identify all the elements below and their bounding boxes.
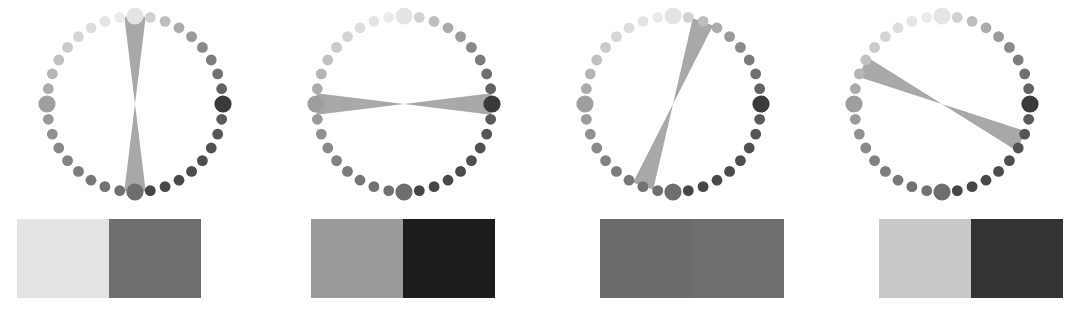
- wheel-dot: [664, 183, 681, 200]
- wheel-dot: [197, 42, 208, 53]
- wheel-dot: [869, 155, 880, 166]
- wheel-dot: [428, 181, 439, 192]
- wheel-dot: [205, 55, 216, 66]
- wheel-dot: [159, 181, 170, 192]
- wheel-dot: [216, 83, 227, 94]
- wheel-dot: [354, 175, 365, 186]
- wheel-dot: [466, 42, 477, 53]
- bowtie-wedge-2: [858, 57, 942, 104]
- wheel-dot: [62, 155, 73, 166]
- wheel-dot: [697, 181, 708, 192]
- wheel-dot: [315, 69, 326, 80]
- panel-1: [0, 0, 269, 318]
- wheel-dot: [186, 31, 197, 42]
- wheel-dot: [966, 181, 977, 192]
- bar-half-left: [17, 219, 109, 298]
- wheel-dot: [173, 22, 184, 33]
- color-wheel-3: [538, 0, 807, 205]
- wheel-dot: [38, 95, 55, 112]
- wheel-dot: [853, 129, 864, 140]
- panel-4: [807, 0, 1076, 318]
- wheel-dot: [483, 95, 500, 112]
- wheel-dot: [637, 16, 648, 27]
- wheel-dot: [413, 12, 424, 23]
- wheel-dot: [307, 95, 324, 112]
- wheel-dot: [53, 143, 64, 154]
- wheel-dot: [906, 16, 917, 27]
- wheel-dot: [933, 183, 950, 200]
- comparison-bar-wrap-4: [807, 219, 1076, 299]
- wheel-dot: [53, 55, 64, 66]
- wheel-dot: [322, 55, 333, 66]
- wheel-dot: [1023, 83, 1034, 94]
- wheel-dot: [42, 114, 53, 125]
- wheel-dot: [611, 31, 622, 42]
- wheel-dot: [395, 183, 412, 200]
- wheel-dot: [85, 175, 96, 186]
- panel-2: [269, 0, 538, 318]
- wheel-dot: [368, 181, 379, 192]
- wheel-dot: [880, 166, 891, 177]
- wheel-dot: [481, 69, 492, 80]
- wheel-dot: [623, 175, 634, 186]
- wheel-dot: [442, 22, 453, 33]
- wheel-dot: [485, 83, 496, 94]
- wheel-dot: [906, 181, 917, 192]
- wheel-dot: [212, 69, 223, 80]
- wheel-dot: [322, 143, 333, 154]
- wheel-dot: [481, 129, 492, 140]
- wheel-svg: [573, 4, 773, 204]
- wheel-dot: [126, 183, 143, 200]
- wheel-dot: [724, 31, 735, 42]
- wheel-dot: [849, 114, 860, 125]
- wheel-dot: [880, 31, 891, 42]
- wheel-dot: [73, 31, 84, 42]
- panel-3: [538, 0, 807, 318]
- wheel-dot: [311, 83, 322, 94]
- bowtie-indicator: [633, 18, 713, 189]
- bar-half-left: [879, 219, 971, 298]
- wheel-dot: [584, 129, 595, 140]
- wheel-dot: [214, 95, 231, 112]
- comparison-bar: [600, 219, 784, 298]
- wheel-dot: [342, 166, 353, 177]
- wheel-svg: [35, 4, 235, 204]
- wheel-dot: [466, 155, 477, 166]
- wheel-dot: [197, 155, 208, 166]
- wheel-dot: [368, 16, 379, 27]
- wheel-dot: [743, 143, 754, 154]
- wheel-dot: [933, 7, 950, 24]
- wheel-dot: [311, 114, 322, 125]
- wheel-dot: [413, 185, 424, 196]
- wheel-dot: [869, 42, 880, 53]
- bowtie-indicator: [124, 17, 145, 192]
- wheel-dot: [212, 129, 223, 140]
- bowtie-indicator: [858, 57, 1025, 150]
- wheel-dot: [126, 7, 143, 24]
- wheel-dot: [85, 22, 96, 33]
- wheel-dot: [980, 175, 991, 186]
- wheel-dot: [966, 16, 977, 27]
- wheel-dot: [73, 166, 84, 177]
- wheel-dot: [1004, 155, 1015, 166]
- wheel-dot: [383, 12, 394, 23]
- wheel-dot: [664, 7, 681, 24]
- wheel-dot: [600, 155, 611, 166]
- comparison-bar: [311, 219, 495, 298]
- wheel-dot: [892, 175, 903, 186]
- wheel-dot: [144, 12, 155, 23]
- bowtie-wedge-1: [404, 93, 491, 114]
- wheel-dot: [584, 69, 595, 80]
- wheel-dot: [354, 22, 365, 33]
- bar-half-left: [311, 219, 403, 298]
- bowtie-wedge-1: [673, 18, 713, 104]
- wheel-dot: [853, 69, 864, 80]
- bowtie-wedge-2: [316, 93, 403, 114]
- wheel-dot: [428, 16, 439, 27]
- wheel-dot: [186, 166, 197, 177]
- wheel-svg: [842, 4, 1042, 204]
- wheel-dot: [331, 42, 342, 53]
- bar-half-right: [403, 219, 495, 298]
- wheel-dot: [1004, 42, 1015, 53]
- wheel-dot: [860, 143, 871, 154]
